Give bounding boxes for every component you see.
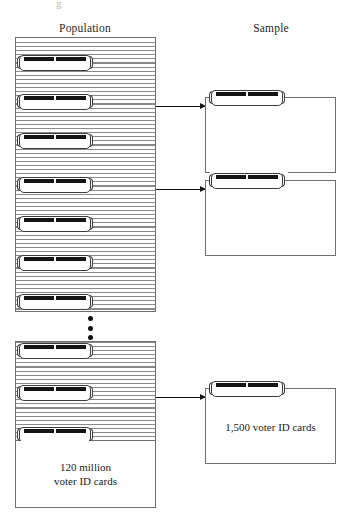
voter-id-card-icon — [17, 343, 93, 359]
ellipsis-dot — [88, 316, 93, 321]
card-stripe-gap — [54, 429, 56, 433]
card-line — [216, 389, 278, 390]
card-line — [24, 185, 86, 186]
card-stripe-gap — [54, 179, 56, 183]
population-column-label: Population — [10, 22, 160, 34]
card-line — [216, 98, 278, 99]
population-caption: 120 million voter ID cards — [54, 460, 117, 488]
voter-id-card-icon — [17, 177, 93, 193]
sample-column-label: Sample — [205, 22, 337, 34]
cropped-text-artifact: g — [56, 0, 62, 9]
card-line — [24, 393, 86, 394]
voter-id-card-icon — [209, 90, 285, 106]
card-stripe-gap — [54, 345, 56, 349]
voter-id-card-icon — [17, 94, 93, 110]
voter-id-card-icon — [17, 133, 93, 149]
population-ellipsis — [85, 316, 95, 340]
sampling-arrow-1 — [156, 103, 206, 110]
card-stripe-gap — [246, 175, 248, 179]
card-line — [24, 102, 86, 103]
voter-id-card-icon — [17, 216, 93, 232]
card-line — [24, 224, 86, 225]
ellipsis-dot — [88, 326, 93, 331]
card-line — [24, 141, 86, 142]
sample-box: 1,500 voter ID cards — [205, 388, 336, 464]
sample-box-caption: 1,500 voter ID cards — [206, 421, 335, 433]
card-line — [24, 435, 86, 436]
population-caption-line-2: voter ID cards — [54, 474, 117, 488]
card-line — [216, 181, 278, 182]
sampling-diagram: g Population Sample — [0, 0, 358, 523]
voter-id-card-icon — [17, 385, 93, 401]
arrow-shaft — [156, 106, 206, 107]
population-caption-box: 120 million voter ID cards — [15, 441, 156, 508]
voter-id-card-icon — [17, 55, 93, 71]
sample-box — [205, 97, 336, 173]
sampling-arrow-3 — [156, 394, 206, 401]
card-line — [24, 302, 86, 303]
card-stripe-gap — [54, 135, 56, 139]
card-stripe-gap — [54, 218, 56, 222]
population-caption-line-1: 120 million — [54, 460, 117, 474]
sampling-arrow-2 — [156, 186, 206, 193]
voter-id-card-icon — [17, 255, 93, 271]
card-stripe-gap — [54, 387, 56, 391]
card-stripe-gap — [54, 57, 56, 61]
card-line — [24, 351, 86, 352]
arrow-shaft — [156, 397, 206, 398]
card-line — [24, 63, 86, 64]
card-stripe-gap — [54, 96, 56, 100]
voter-id-card-icon — [209, 173, 285, 189]
card-stripe-gap — [246, 383, 248, 387]
voter-id-card-icon — [209, 381, 285, 397]
voter-id-card-icon — [17, 294, 93, 310]
ellipsis-dot — [88, 335, 93, 340]
card-stripe-gap — [246, 92, 248, 96]
card-line — [24, 263, 86, 264]
card-stripe-gap — [54, 296, 56, 300]
card-stripe-gap — [54, 257, 56, 261]
sample-box — [205, 180, 336, 256]
arrow-shaft — [156, 189, 206, 190]
